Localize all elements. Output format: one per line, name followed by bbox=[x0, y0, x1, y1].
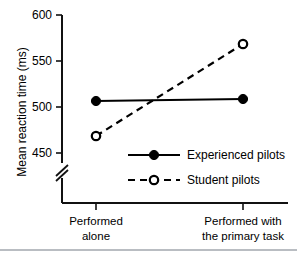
data-point-student-primary-task bbox=[239, 40, 247, 48]
x-category-label-2-line1: Performed with bbox=[204, 215, 281, 227]
series-line-experienced-pilots bbox=[96, 99, 243, 101]
x-category-label-1-line1: Performed bbox=[69, 215, 123, 227]
x-category-label-2-line2: the primary task bbox=[202, 230, 284, 242]
y-tick-label-450: 450 bbox=[32, 146, 52, 160]
legend-label-student-pilots: Student pilots bbox=[187, 173, 260, 187]
legend-entry-student-pilots: Student pilots bbox=[128, 173, 260, 187]
legend: Experienced pilots Student pilots bbox=[128, 148, 285, 187]
series-line-student-pilots bbox=[96, 44, 243, 136]
data-point-experienced-primary-task bbox=[238, 94, 247, 103]
line-chart: 600 550 500 450 Mean reaction time (ms) … bbox=[0, 0, 297, 257]
y-tick-label-500: 500 bbox=[32, 100, 52, 114]
x-category-label-1-line2: alone bbox=[82, 230, 110, 242]
data-point-experienced-alone bbox=[91, 96, 100, 105]
y-tick-label-550: 550 bbox=[32, 54, 52, 68]
data-point-student-alone bbox=[92, 132, 100, 140]
y-axis-title: Mean reaction time (ms) bbox=[15, 47, 29, 176]
legend-marker-filled-circle-icon bbox=[149, 150, 158, 159]
figure-panel: 600 550 500 450 Mean reaction time (ms) … bbox=[0, 0, 297, 257]
legend-label-experienced-pilots: Experienced pilots bbox=[187, 148, 285, 162]
legend-marker-open-circle-icon bbox=[150, 176, 158, 184]
y-tick-label-600: 600 bbox=[32, 8, 52, 22]
legend-entry-experienced-pilots: Experienced pilots bbox=[128, 148, 285, 162]
